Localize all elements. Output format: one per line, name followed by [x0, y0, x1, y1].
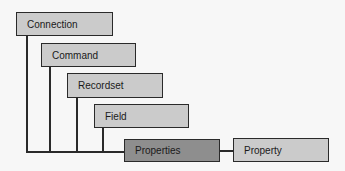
node-properties: Properties	[124, 139, 220, 162]
node-recordset: Recordset	[67, 73, 163, 98]
node-label: Connection	[27, 19, 78, 30]
connector-command	[49, 66, 51, 152]
connector-baseline	[26, 151, 125, 153]
node-property: Property	[233, 138, 329, 162]
node-label: Properties	[135, 145, 181, 156]
connector-connection	[26, 35, 28, 152]
connector-field	[102, 127, 104, 152]
node-command: Command	[41, 43, 136, 67]
node-label: Property	[244, 145, 282, 156]
connector-properties-property	[219, 150, 234, 152]
node-label: Field	[105, 111, 127, 122]
connector-recordset	[76, 97, 78, 152]
node-connection: Connection	[16, 12, 113, 36]
node-label: Recordset	[78, 80, 124, 91]
node-label: Command	[52, 50, 98, 61]
node-field: Field	[94, 104, 189, 128]
